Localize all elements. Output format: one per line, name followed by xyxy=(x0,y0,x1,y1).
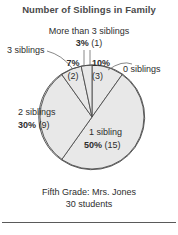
slice-percent-more-than-3-siblings: 3% xyxy=(76,38,89,48)
slice-percent-2-siblings: 30% xyxy=(18,120,36,130)
slice-label-1-sibling-value: 50% (15) xyxy=(84,140,121,151)
slice-percent-3-siblings: 7% xyxy=(58,58,88,69)
slice-percent-1-sibling: 50% xyxy=(84,140,102,150)
slice-label-more-than-3-siblings-name: More than 3 siblings xyxy=(0,26,178,37)
slice-label-0-siblings-name: 0 siblings xyxy=(123,64,161,75)
slice-label-2-siblings-value: 30% (9) xyxy=(18,120,50,131)
bottom-divider xyxy=(2,222,176,223)
slice-percent-3-siblings-text: 7% xyxy=(66,58,79,68)
slice-percent-0-siblings-text: 10% xyxy=(92,58,110,68)
slice-label-3-siblings-name: 3 siblings xyxy=(7,45,45,56)
caption-line-students: 30 students xyxy=(0,198,178,210)
caption-line-teacher: Fifth Grade: Mrs. Jones xyxy=(0,186,178,198)
slice-label-1-sibling-name: 1 sibling xyxy=(89,127,122,138)
slice-count-0-siblings: (3) xyxy=(92,71,122,82)
pie-chart-figure: Number of Siblings in Family More than 3… xyxy=(0,0,178,235)
slice-label-2-siblings-name: 2 siblings xyxy=(18,107,56,118)
slice-percent-0-siblings: 10% xyxy=(92,58,122,69)
chart-caption: Fifth Grade: Mrs. Jones 30 students xyxy=(0,186,178,210)
slice-count-1-sibling: (15) xyxy=(105,140,121,150)
slice-count-3-siblings: (2) xyxy=(58,71,88,82)
slice-count-2-siblings: (9) xyxy=(39,120,50,130)
slice-count-more-than-3-siblings: (1) xyxy=(91,38,102,48)
